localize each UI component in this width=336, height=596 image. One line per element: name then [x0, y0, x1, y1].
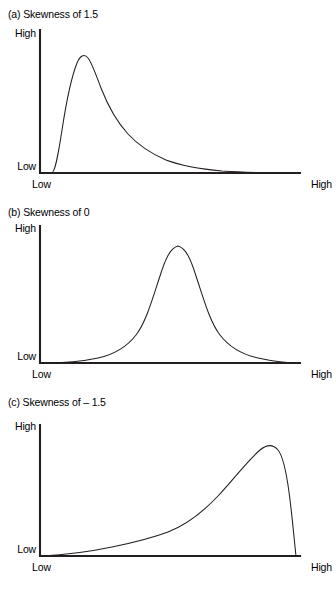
- chart-panel-a: (a) Skewness of 1.5 High Low Low High: [0, 0, 336, 198]
- panel-c-title: (c) Skewness of – 1.5: [8, 396, 106, 408]
- panel-b-skewness-curve: [42, 246, 300, 363]
- panel-a-skewness-curve: [52, 56, 301, 173]
- panel-a-title: (a) Skewness of 1.5: [8, 8, 98, 20]
- panel-b-title: (b) Skewness of 0: [8, 206, 90, 218]
- panel-b-axes: [40, 226, 300, 363]
- chart-panel-c: (c) Skewness of – 1.5 High Low Low High: [0, 388, 336, 596]
- panel-a-plot: [0, 20, 336, 180]
- chart-panel-b: (b) Skewness of 0 High Low Low High: [0, 198, 336, 388]
- panel-a-axes: [40, 30, 300, 173]
- panel-c-plot: [0, 408, 336, 568]
- panel-b-plot: [0, 218, 336, 370]
- panel-c-skewness-curve: [42, 445, 296, 556]
- panel-c-axes: [40, 425, 300, 556]
